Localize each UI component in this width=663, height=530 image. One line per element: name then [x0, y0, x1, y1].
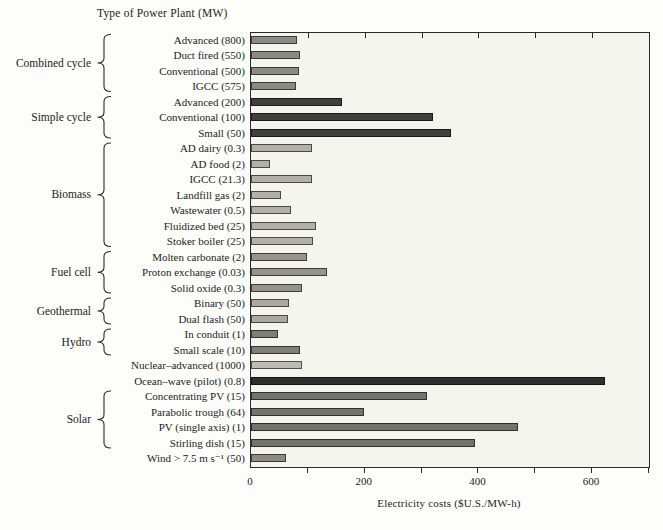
x-tick-top-700 [649, 33, 650, 38]
group-label-simple-cycle: Simple cycle [31, 109, 91, 126]
brace-hydro [98, 329, 112, 355]
row-label-wastewater-0-5: Wastewater (0.5) [170, 202, 245, 218]
row-label-fluidized-bed-25: Fluidized bed (25) [164, 218, 245, 234]
bar-ad-food-2 [251, 160, 270, 168]
row-label-concentrating-pv-15: Concentrating PV (15) [145, 388, 245, 404]
row-label-conventional-100: Conventional (100) [159, 109, 245, 125]
x-tick-bottom-200 [364, 468, 365, 473]
brace-geothermal [98, 298, 112, 324]
bar-igcc-21-3 [251, 175, 312, 183]
bar-duct-fired-550 [251, 51, 300, 59]
row-label-landfill-gas-2: Landfill gas (2) [177, 187, 245, 203]
bar-advanced-200 [251, 98, 342, 106]
x-tick-label-600: 600 [571, 475, 611, 487]
group-label-solar: Solar [67, 411, 91, 428]
row-label-stoker-boiler-25: Stoker boiler (25) [167, 233, 245, 249]
x-tick-top-600 [592, 33, 593, 38]
brace-fuel-cell [98, 252, 112, 294]
x-tick-top-200 [365, 33, 366, 38]
row-label-binary-50: Binary (50) [194, 295, 245, 311]
group-label-combined-cycle: Combined cycle [16, 55, 91, 72]
row-label-small-50: Small (50) [198, 125, 245, 141]
bar-small-50 [251, 129, 451, 137]
x-tick-label-0: 0 [230, 475, 270, 487]
row-label-molten-carbonate-2: Molten carbonate (2) [152, 249, 245, 265]
row-label-igcc-21-3: IGCC (21.3) [189, 171, 245, 187]
bar-conventional-100 [251, 113, 433, 121]
brace-solar [98, 391, 112, 448]
row-label-duct-fired-550: Duct fired (550) [174, 47, 245, 63]
bar-proton-exchange-0-03 [251, 268, 327, 276]
bar-solid-oxide-0-3 [251, 284, 302, 292]
bar-stoker-boiler-25 [251, 237, 313, 245]
x-tick-label-400: 400 [457, 475, 497, 487]
row-label-ad-food-2: AD food (2) [191, 156, 245, 172]
bar-stirling-dish-15 [251, 439, 475, 447]
x-tick-top-100 [308, 33, 309, 38]
bar-ad-dairy-0-3 [251, 144, 312, 152]
group-label-fuel-cell: Fuel cell [51, 264, 91, 281]
brace-combined-cycle [98, 35, 112, 92]
x-tick-top-400 [478, 33, 479, 38]
bar-dual-flash-50 [251, 315, 288, 323]
x-tick-label-200: 200 [344, 475, 384, 487]
row-label-in-conduit-1: In conduit (1) [185, 326, 245, 342]
bar-ocean-wave-pilot-0-8 [251, 377, 605, 385]
row-label-nuclear-advanced-1000: Nuclear–advanced (1000) [131, 357, 245, 373]
power-plant-cost-chart: Type of Power Plant (MW) Electricity cos… [0, 0, 663, 530]
row-label-ocean-wave-pilot-0-8: Ocean–wave (pilot) (0.8) [134, 373, 245, 389]
bar-wind-7-5-m-s-50 [251, 454, 286, 462]
x-tick-bottom-500 [534, 468, 535, 473]
row-label-conventional-500: Conventional (500) [159, 63, 245, 79]
row-label-parabolic-trough-64: Parabolic trough (64) [151, 404, 245, 420]
x-tick-bottom-100 [307, 468, 308, 473]
x-tick-top-500 [535, 33, 536, 38]
bar-landfill-gas-2 [251, 191, 281, 199]
bar-molten-carbonate-2 [251, 253, 307, 261]
bar-nuclear-advanced-1000 [251, 361, 302, 369]
row-label-pv-single-axis-1: PV (single axis) (1) [159, 419, 245, 435]
plot-area [250, 32, 650, 468]
bar-fluidized-bed-25 [251, 222, 316, 230]
bar-wastewater-0-5 [251, 206, 291, 214]
row-label-dual-flash-50: Dual flash (50) [178, 311, 245, 327]
chart-title: Type of Power Plant (MW) [97, 7, 227, 19]
row-label-advanced-800: Advanced (800) [174, 32, 245, 48]
group-label-geothermal: Geothermal [37, 303, 91, 320]
row-label-proton-exchange-0-03: Proton exchange (0.03) [142, 264, 245, 280]
brace-biomass [98, 143, 112, 247]
x-tick-bottom-700 [648, 468, 649, 473]
bar-small-scale-10 [251, 346, 300, 354]
bar-conventional-500 [251, 67, 299, 75]
x-tick-bottom-600 [591, 468, 592, 473]
bar-in-conduit-1 [251, 330, 278, 338]
x-tick-bottom-400 [477, 468, 478, 473]
bar-igcc-575 [251, 82, 296, 90]
x-tick-top-300 [422, 33, 423, 38]
row-label-ad-dairy-0-3: AD dairy (0.3) [180, 140, 245, 156]
row-label-advanced-200: Advanced (200) [174, 94, 245, 110]
row-label-wind-7-5-m-s-50: Wind > 7.5 m s⁻¹ (50) [147, 450, 245, 466]
bar-binary-50 [251, 299, 289, 307]
brace-simple-cycle [98, 97, 112, 139]
x-axis-title: Electricity costs ($U.S./MW-h) [250, 497, 648, 509]
bar-advanced-800 [251, 36, 297, 44]
group-label-biomass: Biomass [51, 186, 91, 203]
group-label-hydro: Hydro [62, 334, 91, 351]
bar-concentrating-pv-15 [251, 392, 427, 400]
row-label-solid-oxide-0-3: Solid oxide (0.3) [171, 280, 245, 296]
row-label-small-scale-10: Small scale (10) [174, 342, 245, 358]
x-tick-bottom-300 [421, 468, 422, 473]
row-label-stirling-dish-15: Stirling dish (15) [170, 435, 245, 451]
bar-pv-single-axis-1 [251, 423, 518, 431]
bar-parabolic-trough-64 [251, 408, 364, 416]
row-label-igcc-575: IGCC (575) [192, 78, 245, 94]
